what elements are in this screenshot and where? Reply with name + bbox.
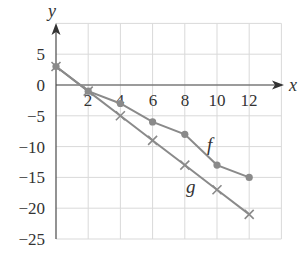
circle-marker-icon [246, 174, 253, 181]
circle-marker-icon [52, 63, 59, 70]
x-axis-label: x [288, 75, 297, 95]
circle-marker-icon [181, 131, 188, 138]
y-tick-label: 5 [37, 45, 46, 64]
y-tick-label: 0 [37, 76, 46, 95]
y-tick-label: −5 [27, 107, 45, 126]
y-axis-label: y [46, 1, 56, 21]
y-tick-labels: 5 0 −5 −10 −15 −20 −25 [18, 45, 45, 249]
circle-marker-icon [85, 88, 92, 95]
y-tick-label: −25 [18, 230, 45, 249]
y-tick-label: −15 [18, 168, 45, 187]
x-tick-label: 6 [149, 91, 158, 110]
x-tick-label: 8 [181, 91, 190, 110]
circle-marker-icon [117, 100, 124, 107]
x-tick-label: 10 [209, 91, 226, 110]
line-chart: x y 2 4 6 8 10 12 5 0 −5 −10 −15 −20 −25… [0, 0, 306, 267]
x-tick-label: 12 [241, 91, 258, 110]
series-f-label: f [207, 134, 215, 155]
circle-marker-icon [149, 118, 156, 125]
grid [56, 23, 281, 239]
circle-marker-icon [213, 161, 220, 168]
y-tick-label: −20 [18, 199, 45, 218]
y-tick-label: −10 [18, 138, 45, 157]
series-g-label: g [186, 176, 196, 197]
